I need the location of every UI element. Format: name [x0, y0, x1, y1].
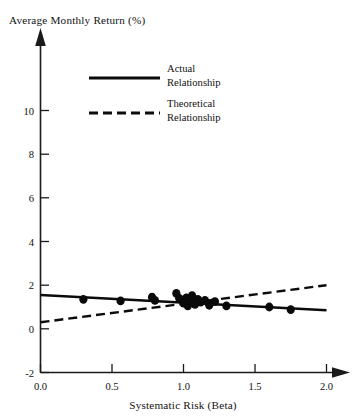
x-tick-label: 2.0	[320, 381, 333, 392]
legend-label-theoretical-line1: Theoretical	[167, 98, 215, 109]
y-tick-label: 4	[29, 237, 35, 248]
y-tick-label: 2	[29, 280, 34, 291]
x-tick-label: 0.0	[34, 381, 47, 392]
legend-label-theoretical-line2: Relationship	[167, 112, 221, 123]
data-point	[151, 296, 159, 305]
data-point	[222, 302, 230, 311]
y-tick-label: -2	[25, 368, 34, 379]
chart-legend: Actual Relationship Theoretical Relation…	[89, 63, 221, 123]
x-tick-label: 1.0	[177, 381, 190, 392]
x-axis-ticks: 0.0 0.5 1.0 1.5 2.0	[34, 364, 333, 392]
y-axis-ticks: 10 8 6 4 2 0 -2	[23, 106, 49, 379]
y-tick-label: 10	[23, 106, 34, 117]
x-axis-title: Systematic Risk (Beta)	[129, 399, 237, 412]
data-point	[79, 295, 87, 304]
legend-label-actual-line1: Actual	[167, 63, 195, 74]
y-axis-arrow-icon	[35, 28, 46, 46]
x-axis	[41, 367, 351, 378]
x-tick-label: 0.5	[105, 381, 118, 392]
data-point	[116, 296, 124, 305]
x-axis-arrow-icon	[332, 367, 350, 378]
chart-container: Average Monthly Return (%) 10 8 6 4 2 0	[0, 0, 359, 420]
y-tick-label: 0	[29, 324, 34, 335]
data-point	[211, 297, 219, 306]
data-point	[287, 305, 295, 314]
y-tick-label: 6	[29, 193, 34, 204]
x-tick-label: 1.5	[248, 381, 261, 392]
data-point	[265, 303, 273, 312]
y-tick-label: 8	[29, 149, 34, 160]
data-series-layer	[41, 285, 327, 322]
y-axis-title: Average Monthly Return (%)	[9, 14, 145, 27]
legend-label-actual-line2: Relationship	[167, 77, 221, 88]
scatter-plot-canvas: Average Monthly Return (%) 10 8 6 4 2 0	[0, 0, 359, 420]
